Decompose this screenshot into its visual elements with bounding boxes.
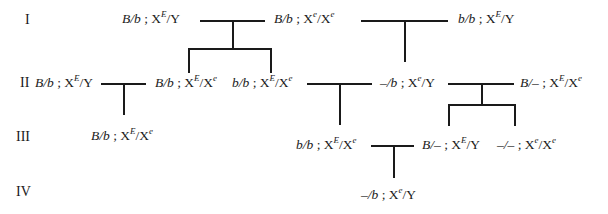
y-chromosome: /Y <box>467 137 481 152</box>
individual-I-1: B/b ; XE/Y <box>122 12 180 26</box>
allele: e <box>552 135 556 145</box>
sibship-line <box>188 48 271 50</box>
individual-I-2: B/b ; Xe/Xe <box>274 12 335 26</box>
autosomal-genotype: b/b <box>458 11 475 26</box>
separator: ; <box>293 11 304 26</box>
allele: e <box>213 73 217 83</box>
x-chromosome: X <box>549 75 559 90</box>
allele: e <box>535 135 539 145</box>
x-chromosome: X <box>408 75 418 90</box>
x-chromosome: X <box>64 75 74 90</box>
individual-II-4: –/b ; Xe/Y <box>380 76 435 90</box>
separator: ; <box>54 75 65 90</box>
x-chromosome: X <box>260 75 270 90</box>
separator: ; <box>397 75 408 90</box>
autosomal-genotype: b/b <box>296 137 313 152</box>
allele: e <box>399 185 403 195</box>
descent-line <box>339 83 341 125</box>
allele: e <box>289 73 293 83</box>
generation-label-III: III <box>16 129 30 145</box>
allele: E <box>194 73 200 83</box>
separator: ; <box>441 137 452 152</box>
descent-line <box>188 48 190 73</box>
descent-line <box>232 20 234 48</box>
descent-line <box>270 48 272 73</box>
allele: E <box>461 135 467 145</box>
descent-line <box>481 83 483 105</box>
y-chromosome: /Y <box>403 187 417 202</box>
separator: ; <box>313 137 324 152</box>
autosomal-genotype: B/– <box>422 137 441 152</box>
generation-label-I: I <box>25 12 30 28</box>
separator: ; <box>514 137 525 152</box>
allele: E <box>74 73 80 83</box>
x-chromosome: X <box>324 137 334 152</box>
individual-III-2: b/b ; XE/Xe <box>296 138 357 152</box>
x-chromosome: /X <box>275 75 289 90</box>
allele: e <box>149 126 153 136</box>
y-chromosome: /Y <box>501 11 515 26</box>
individual-III-4: –/– ; Xe/Xe <box>497 138 556 152</box>
autosomal-genotype: B/– <box>520 75 539 90</box>
y-chromosome: /Y <box>80 75 94 90</box>
individual-IV-1: –/b ; Xe/Y <box>361 188 416 202</box>
allele: E <box>161 9 167 19</box>
generation-label-II: II <box>20 75 29 91</box>
x-chromosome: X <box>303 11 313 26</box>
x-chromosome: X <box>486 11 496 26</box>
y-chromosome: /Y <box>422 75 436 90</box>
descent-line <box>404 20 406 62</box>
x-chromosome: /X <box>200 75 214 90</box>
y-chromosome: /Y <box>167 11 181 26</box>
allele: E <box>559 73 565 83</box>
x-chromosome: /X <box>539 137 553 152</box>
allele: e <box>331 9 335 19</box>
separator: ; <box>141 11 152 26</box>
allele: E <box>130 126 136 136</box>
descent-line <box>393 145 395 178</box>
autosomal-genotype: –/b <box>380 75 397 90</box>
x-chromosome: X <box>120 128 130 143</box>
x-chromosome: X <box>451 137 461 152</box>
generation-label-IV: IV <box>16 184 31 200</box>
autosomal-genotype: B/b <box>35 75 54 90</box>
sibship-line <box>448 104 515 106</box>
individual-I-3: b/b ; XE/Y <box>458 12 515 26</box>
individual-III-3: B/– ; XE/Y <box>422 138 480 152</box>
x-chromosome: X <box>151 11 161 26</box>
x-chromosome: /X <box>136 128 150 143</box>
separator: ; <box>249 75 260 90</box>
x-chromosome: X <box>525 137 535 152</box>
descent-line <box>123 83 125 115</box>
allele: E <box>334 135 340 145</box>
individual-II-3: b/b ; XE/Xe <box>232 76 293 90</box>
autosomal-genotype: B/b <box>122 11 141 26</box>
allele: e <box>418 73 422 83</box>
individual-II-5: B/– ; XE/Xe <box>520 76 582 90</box>
allele: E <box>270 73 276 83</box>
allele: e <box>313 9 317 19</box>
autosomal-genotype: B/b <box>155 75 174 90</box>
descent-line <box>448 104 450 126</box>
individual-III-1: B/b ; XE/Xe <box>91 129 153 143</box>
allele: e <box>578 73 582 83</box>
separator: ; <box>475 11 486 26</box>
allele: E <box>496 9 502 19</box>
x-chromosome: /X <box>339 137 353 152</box>
descent-line <box>514 104 516 126</box>
separator: ; <box>110 128 121 143</box>
x-chromosome: X <box>184 75 194 90</box>
allele: e <box>353 135 357 145</box>
autosomal-genotype: –/b <box>361 187 378 202</box>
x-chromosome: X <box>389 187 399 202</box>
individual-II-2: B/b ; XE/Xe <box>155 76 217 90</box>
x-chromosome: /X <box>565 75 579 90</box>
x-chromosome: /X <box>317 11 331 26</box>
separator: ; <box>378 187 389 202</box>
individual-II-1: B/b ; XE/Y <box>35 76 93 90</box>
autosomal-genotype: B/b <box>274 11 293 26</box>
separator: ; <box>174 75 185 90</box>
autosomal-genotype: –/– <box>497 137 514 152</box>
separator: ; <box>539 75 550 90</box>
autosomal-genotype: b/b <box>232 75 249 90</box>
